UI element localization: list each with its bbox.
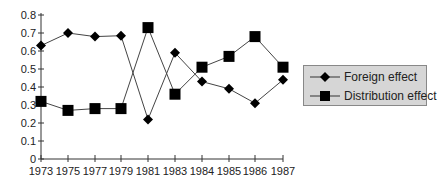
x-tick-label: 1983 bbox=[163, 165, 187, 177]
diamond-marker-icon bbox=[224, 84, 234, 94]
x-tick-label: 1981 bbox=[136, 165, 160, 177]
y-tick-label: 0.4 bbox=[21, 81, 36, 93]
legend-label: Foreign effect bbox=[344, 70, 417, 84]
y-tick-label: 0.5 bbox=[21, 63, 36, 75]
y-tick-label: 0.6 bbox=[21, 45, 36, 57]
square-marker-icon bbox=[170, 89, 181, 100]
square-marker-icon bbox=[63, 105, 74, 116]
y-tick-label: 0.7 bbox=[21, 27, 36, 39]
y-tick-label: 0.8 bbox=[21, 9, 36, 21]
square-marker-icon bbox=[143, 22, 154, 33]
y-tick-label: 0.1 bbox=[21, 135, 36, 147]
diamond-marker-icon bbox=[143, 114, 153, 124]
diamond-marker-icon bbox=[63, 28, 73, 38]
x-tick-label: 1979 bbox=[109, 165, 133, 177]
y-tick-label: 0.3 bbox=[21, 99, 36, 111]
x-tick-label: 1987 bbox=[271, 165, 295, 177]
square-marker-icon bbox=[90, 103, 101, 114]
diamond-marker-icon bbox=[90, 32, 100, 42]
series-markers bbox=[36, 22, 289, 124]
square-marker-icon bbox=[116, 103, 127, 114]
diamond-marker-icon bbox=[36, 41, 46, 51]
square-marker-icon bbox=[250, 31, 261, 42]
square-marker-icon bbox=[278, 62, 289, 73]
legend-item-distribution-effect: Distribution effect bbox=[304, 87, 437, 105]
square-marker-icon bbox=[224, 51, 235, 62]
square-marker-icon bbox=[310, 89, 340, 103]
square-marker-icon bbox=[36, 96, 47, 107]
x-tick-label: 1973 bbox=[29, 165, 53, 177]
legend-label: Distribution effect bbox=[344, 89, 437, 103]
series-line bbox=[41, 33, 283, 119]
legend: Foreign effect Distribution effect bbox=[303, 65, 427, 106]
series-lines bbox=[41, 28, 283, 120]
x-tick-label: 1975 bbox=[56, 165, 80, 177]
y-tick-label: 0.2 bbox=[21, 117, 36, 129]
x-tick-label: 1984 bbox=[190, 165, 214, 177]
y-tick-label: 0 bbox=[30, 153, 36, 165]
series-line bbox=[41, 28, 283, 111]
x-tick-label: 1985 bbox=[217, 165, 241, 177]
x-tick-label: 1977 bbox=[83, 165, 107, 177]
square-marker-icon bbox=[197, 62, 208, 73]
legend-item-foreign-effect: Foreign effect bbox=[304, 68, 417, 86]
diamond-marker-icon bbox=[310, 70, 340, 84]
x-tick-label: 1986 bbox=[243, 165, 267, 177]
diamond-marker-icon bbox=[116, 31, 126, 41]
